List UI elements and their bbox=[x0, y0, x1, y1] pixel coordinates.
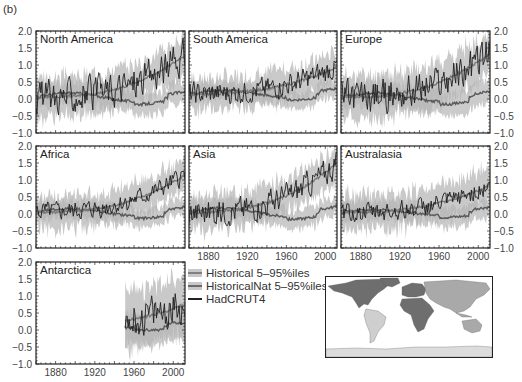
line-swatch-icon bbox=[188, 295, 202, 303]
legend-item-historicalnat: HistoricalNat 5–95%iles bbox=[188, 279, 327, 292]
y-tick-label: −1.0 bbox=[12, 128, 32, 139]
y-tick-label: 1.5 bbox=[494, 43, 508, 54]
y-tick-label: 2.0 bbox=[18, 257, 32, 268]
y-tick-label: 1.5 bbox=[494, 158, 508, 169]
panel-north-america: North America2.01.51.00.50.0−0.5−1.0 bbox=[12, 26, 185, 139]
y-tick-label: 1.0 bbox=[18, 291, 32, 302]
y-tick-label: 1.5 bbox=[18, 158, 32, 169]
panel-africa: Africa2.01.51.00.50.0−0.5−1.0 bbox=[12, 141, 185, 254]
legend-item-historical: Historical 5–95%iles bbox=[188, 266, 327, 279]
panel-title: Africa bbox=[40, 148, 70, 160]
panel-australasia: Australasia2.01.51.00.50.0−0.5−1.0188019… bbox=[341, 141, 514, 263]
y-tick-label: 1.0 bbox=[494, 60, 508, 71]
y-tick-label: 0.5 bbox=[494, 77, 508, 88]
panel-title: North America bbox=[40, 33, 113, 45]
panel-south-america: South America bbox=[189, 31, 337, 133]
panel-title: South America bbox=[193, 33, 268, 45]
world-map-icon bbox=[326, 277, 492, 357]
x-tick-label: 1960 bbox=[428, 251, 451, 262]
y-tick-label: 1.0 bbox=[18, 175, 32, 186]
legend-label: HadCRUT4 bbox=[206, 293, 265, 305]
panel-title: Antarctica bbox=[40, 264, 92, 276]
y-tick-label: 1.0 bbox=[18, 60, 32, 71]
y-tick-label: 2.0 bbox=[494, 141, 508, 152]
y-tick-label: 0.5 bbox=[18, 192, 32, 203]
x-tick-label: 1920 bbox=[84, 367, 107, 378]
x-tick-label: 1880 bbox=[349, 251, 372, 262]
legend-label: HistoricalNat 5–95%iles bbox=[206, 280, 327, 292]
legend-label: Historical 5–95%iles bbox=[206, 267, 310, 279]
band-swatch-icon bbox=[188, 269, 202, 277]
y-tick-label: 0.0 bbox=[18, 325, 32, 336]
y-tick-label: 0.0 bbox=[494, 209, 508, 220]
x-tick-label: 1920 bbox=[236, 251, 259, 262]
panel-title: Europe bbox=[345, 33, 382, 45]
legend: Historical 5–95%iles HistoricalNat 5–95%… bbox=[188, 266, 327, 305]
y-tick-label: 1.5 bbox=[18, 43, 32, 54]
y-tick-label: −0.5 bbox=[12, 226, 32, 237]
band-swatch-icon bbox=[188, 282, 202, 290]
x-tick-label: 2000 bbox=[467, 251, 490, 262]
y-tick-label: −0.5 bbox=[494, 111, 514, 122]
panel-title: Asia bbox=[193, 148, 216, 160]
panel-europe: Europe2.01.51.00.50.0−0.5−1.0 bbox=[341, 26, 514, 139]
x-tick-label: 1880 bbox=[44, 367, 67, 378]
y-tick-label: −1.0 bbox=[12, 359, 32, 370]
x-tick-label: 1960 bbox=[275, 251, 298, 262]
x-tick-label: 1880 bbox=[197, 251, 220, 262]
y-tick-label: −0.5 bbox=[12, 342, 32, 353]
y-tick-label: 2.0 bbox=[18, 141, 32, 152]
region-map bbox=[325, 276, 493, 358]
y-tick-label: 0.5 bbox=[494, 192, 508, 203]
x-tick-label: 1920 bbox=[389, 251, 412, 262]
panel-title: Australasia bbox=[345, 148, 402, 160]
x-tick-label: 2000 bbox=[314, 251, 337, 262]
y-tick-label: 0.0 bbox=[494, 94, 508, 105]
y-tick-label: 0.5 bbox=[18, 308, 32, 319]
y-tick-label: −1.0 bbox=[494, 243, 514, 254]
y-tick-label: 2.0 bbox=[494, 26, 508, 37]
x-tick-label: 2000 bbox=[162, 367, 185, 378]
y-tick-label: 1.5 bbox=[18, 274, 32, 285]
x-tick-label: 1960 bbox=[123, 367, 146, 378]
panel-asia: Asia1880192019602000 bbox=[189, 146, 337, 262]
y-tick-label: 2.0 bbox=[18, 26, 32, 37]
y-tick-label: −1.0 bbox=[494, 128, 514, 139]
y-tick-label: 0.5 bbox=[18, 77, 32, 88]
y-tick-label: −0.5 bbox=[494, 226, 514, 237]
legend-item-hadcrut4: HadCRUT4 bbox=[188, 292, 327, 305]
panel-antarctica: Antarctica2.01.51.00.50.0−0.5−1.01880192… bbox=[12, 257, 185, 379]
y-tick-label: −1.0 bbox=[12, 243, 32, 254]
y-tick-label: −0.5 bbox=[12, 111, 32, 122]
y-tick-label: 0.0 bbox=[18, 94, 32, 105]
y-tick-label: 1.0 bbox=[494, 175, 508, 186]
y-tick-label: 0.0 bbox=[18, 209, 32, 220]
